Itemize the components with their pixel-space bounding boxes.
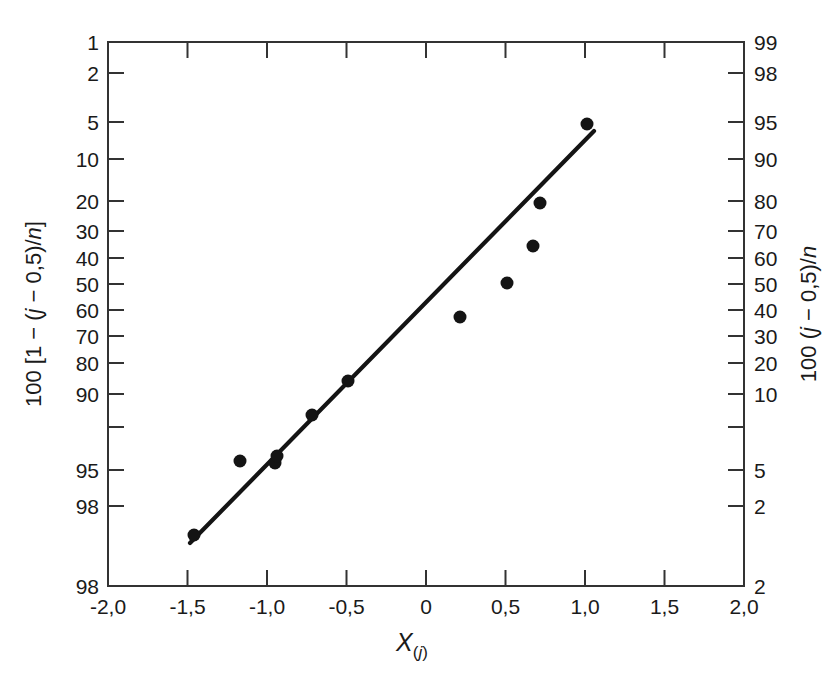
x-tick-label: 0: [420, 595, 432, 618]
right-tick-label: 20: [754, 352, 777, 375]
right-tick-label: 80: [754, 190, 777, 213]
x-tick-label: -0,5: [328, 595, 364, 618]
right-tick-label: 70: [754, 220, 777, 243]
data-points-group: [188, 118, 594, 542]
right-axis-ticks: [728, 73, 744, 506]
right-axis-title: 100 (j − 0,5)/n: [796, 246, 821, 382]
right-tick-label: 95: [754, 111, 777, 134]
data-point: [342, 375, 355, 388]
right-tick-label: 2: [754, 495, 766, 518]
data-point: [188, 529, 201, 542]
left-axis-tick-labels: 1 2 5 10 20 30 40 50 60 70 80 90 95 98 9…: [76, 31, 99, 598]
left-tick-label: 90: [76, 383, 99, 406]
right-axis-tick-labels: 99 98 95 90 80 70 60 50 40 30 20 10 5 2 …: [754, 31, 777, 598]
left-tick-label: 2: [87, 62, 99, 85]
left-tick-label: 60: [76, 299, 99, 322]
right-tick-label: 98: [754, 62, 777, 85]
normal-probability-plot-figure: 1 2 5 10 20 30 40 50 60 70 80 90 95 98 9…: [0, 0, 838, 674]
left-tick-label: 95: [76, 459, 99, 482]
data-point: [534, 197, 547, 210]
left-tick-label: 40: [76, 247, 99, 270]
data-point: [581, 118, 594, 131]
x-tick-label: -1,0: [249, 595, 285, 618]
x-tick-label: 0,5: [491, 595, 520, 618]
data-point: [271, 450, 284, 463]
bottom-axis-ticks: [188, 570, 665, 586]
data-point: [501, 277, 514, 290]
left-tick-label: 70: [76, 325, 99, 348]
left-axis-title: 100 [1 − (j − 0,5)/n]: [21, 221, 46, 407]
left-axis-ticks: [108, 73, 124, 506]
x-tick-label: -1,5: [169, 595, 205, 618]
x-axis-title: X(j): [395, 628, 428, 662]
x-tick-label: -2,0: [90, 595, 126, 618]
x-tick-label: 1,0: [570, 595, 599, 618]
left-tick-label: 98: [76, 495, 99, 518]
right-tick-label: 90: [754, 148, 777, 171]
right-tick-label: 60: [754, 247, 777, 270]
right-tick-label: 10: [754, 383, 777, 406]
top-axis-ticks: [188, 42, 665, 58]
left-tick-label: 50: [76, 273, 99, 296]
right-tick-label: 5: [754, 459, 766, 482]
right-tick-label: 40: [754, 299, 777, 322]
x-tick-label: 2,0: [729, 595, 758, 618]
left-tick-label: 80: [76, 352, 99, 375]
data-point: [234, 455, 247, 468]
data-point: [527, 240, 540, 253]
right-tick-label: 50: [754, 273, 777, 296]
x-axis-tick-labels: -2,0 -1,5 -1,0 -0,5 0 0,5 1,0 1,5 2,0: [90, 595, 759, 618]
chart-canvas: 1 2 5 10 20 30 40 50 60 70 80 90 95 98 9…: [0, 0, 838, 674]
left-tick-label: 1: [87, 31, 99, 54]
data-point: [306, 409, 319, 422]
plot-frame: [108, 42, 744, 586]
left-tick-label: 5: [87, 111, 99, 134]
x-tick-label: 1,5: [650, 595, 679, 618]
fit-line: [190, 131, 594, 543]
left-tick-label: 10: [76, 148, 99, 171]
right-tick-label: 30: [754, 325, 777, 348]
right-tick-label: 99: [754, 31, 777, 54]
left-tick-label: 30: [76, 220, 99, 243]
data-point: [454, 311, 467, 324]
left-tick-label: 20: [76, 190, 99, 213]
